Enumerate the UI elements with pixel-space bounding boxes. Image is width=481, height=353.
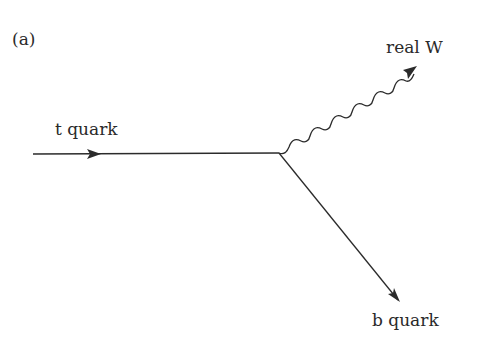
panel-label: (a) (12, 31, 35, 48)
w-boson-wavy-line (279, 74, 414, 154)
b-quark-line (279, 153, 398, 300)
feynman-diagram: (a) t quark real W b quark (0, 0, 481, 353)
b-quark-label: b quark (372, 312, 439, 329)
w-boson-arrow-icon (403, 66, 417, 79)
t-quark-label: t quark (55, 121, 118, 138)
real-w-label: real W (386, 39, 443, 56)
t-quark-line (33, 153, 279, 154)
